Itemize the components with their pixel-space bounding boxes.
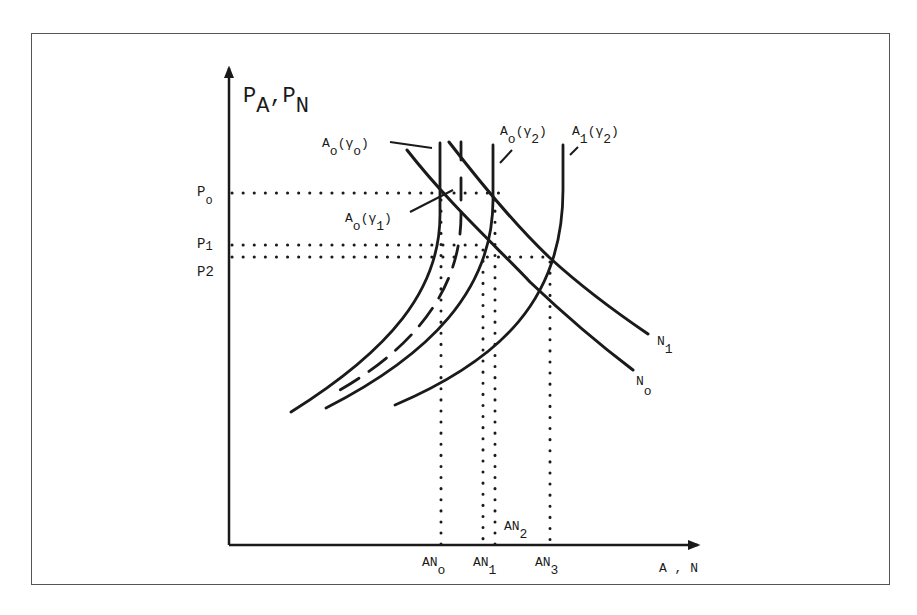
label-a-o-gamma-2: Ao(γ2) xyxy=(500,124,547,147)
label-a-1-gamma-2: A1(γ2) xyxy=(572,124,619,147)
tick-label-p-o: Po xyxy=(197,184,213,208)
tick-label-an-2: AN2 xyxy=(504,519,527,542)
tick-label-p-1: P1 xyxy=(197,236,213,254)
y-axis-label: PA,PN xyxy=(243,84,309,119)
leader-a-o-gamma-2 xyxy=(500,150,512,163)
x-axis-label: A , N xyxy=(659,561,698,576)
curve-a-o-gamma-1 xyxy=(340,178,461,390)
curve-a-o-gamma-o xyxy=(291,143,440,412)
leader-a-1-gamma-2 xyxy=(570,147,578,155)
tick-label-p-2: P2 xyxy=(197,264,214,280)
curve-n-1 xyxy=(449,142,648,334)
tick-label-an-1: AN1 xyxy=(473,555,497,578)
label-n-1: N1 xyxy=(657,334,673,357)
leader-a-o-gamma-o xyxy=(390,142,432,148)
label-a-o-gamma-o: Ao(γo) xyxy=(322,136,369,159)
curve-a-1-gamma-2 xyxy=(395,145,563,405)
label-n-o: No xyxy=(636,374,652,399)
label-a-o-gamma-1: Ao(γ1) xyxy=(345,211,392,234)
chart-canvas: PA,PN Po P1 P2 ANo AN1 AN2 AN3 A , N N1 … xyxy=(0,0,917,615)
tick-label-an-o: ANo xyxy=(422,555,445,578)
tick-label-an-3: AN3 xyxy=(535,555,558,578)
